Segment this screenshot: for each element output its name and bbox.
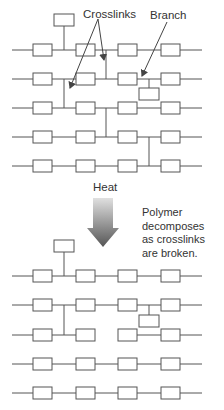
- note-line-4: are broken.: [142, 247, 205, 261]
- crosslinks-label: Crosslinks: [83, 8, 136, 21]
- note-line-3: as crosslinks: [142, 233, 205, 247]
- branch-label: Branch: [150, 9, 186, 22]
- before-network: [12, 14, 202, 172]
- decomposition-note: Polymer decomposes as crosslinks are bro…: [142, 206, 205, 260]
- after-network: [12, 240, 202, 399]
- note-line-2: decomposes: [142, 220, 205, 234]
- polymer-diagram: [0, 0, 224, 410]
- heat-arrow: [87, 198, 119, 247]
- heat-label: Heat: [93, 181, 117, 194]
- note-line-1: Polymer: [142, 206, 205, 220]
